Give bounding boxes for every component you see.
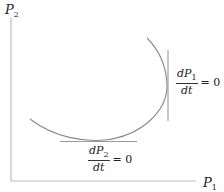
x-axis-label: P1 — [203, 176, 217, 192]
p2-fraction-denominator: dt — [93, 161, 104, 174]
y-axis-label-base: P — [5, 2, 14, 17]
p1-fraction-numerator: dP1 — [176, 68, 198, 84]
x-axis-label-subscript: 1 — [212, 183, 217, 192]
trajectory-curve — [30, 38, 167, 140]
p1-fraction-denominator: dt — [181, 84, 192, 97]
y-axis-label: P2 — [5, 3, 19, 19]
p2-equals-zero: = 0 — [113, 153, 133, 166]
x-axis-label-base: P — [203, 175, 212, 190]
p2-nullcline-label: dP2 dt = 0 — [88, 145, 132, 174]
p2-fraction-numerator: dP2 — [88, 145, 110, 161]
p1-equals-zero: = 0 — [201, 76, 221, 89]
y-axis-label-subscript: 2 — [14, 10, 19, 19]
p1-nullcline-label: dP1 dt = 0 — [176, 68, 220, 97]
p1-fraction: dP1 dt — [176, 68, 198, 97]
p2-fraction: dP2 dt — [88, 145, 110, 174]
